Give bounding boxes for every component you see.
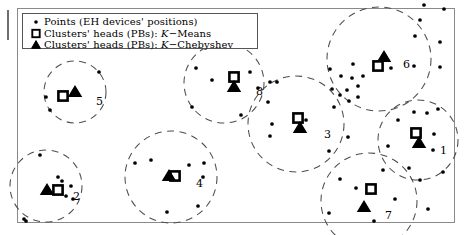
device-point — [346, 135, 350, 139]
device-point — [190, 105, 194, 109]
device-point — [418, 178, 422, 182]
device-point — [210, 78, 214, 82]
triangle-marker — [28, 39, 44, 50]
device-point — [202, 161, 206, 165]
point-marker — [28, 17, 44, 27]
device-point — [438, 65, 442, 69]
device-point — [345, 88, 349, 92]
legend-kmeans-prefix: Clusters' heads (PBs): — [44, 28, 161, 39]
device-point — [347, 99, 351, 103]
device-point — [338, 93, 342, 97]
device-point — [239, 113, 243, 117]
device-point — [187, 163, 191, 167]
legend-kmeans-italic-k: K — [161, 28, 169, 39]
legend-kcheb-prefix: Clusters' heads (PBs): — [44, 39, 161, 50]
device-point — [266, 100, 270, 104]
device-point — [432, 132, 436, 136]
device-point — [393, 197, 397, 201]
legend-kcheb-italic-k: K — [161, 39, 169, 50]
device-point — [431, 148, 435, 152]
legend-kmeans-suffix: −Means — [169, 28, 212, 39]
device-point — [354, 186, 358, 190]
device-point — [97, 70, 101, 74]
cluster-label-5: 5 — [96, 95, 103, 108]
device-point — [389, 66, 393, 70]
cluster-label-7: 7 — [385, 209, 392, 222]
device-point — [422, 3, 426, 7]
legend-row-kchebyshev: Clusters' heads (PBs): K−Chebyshev — [28, 39, 252, 51]
device-point — [332, 105, 336, 109]
device-point — [44, 95, 48, 99]
legend-label-kmeans: Clusters' heads (PBs): K−Means — [44, 28, 211, 39]
device-point — [413, 34, 417, 38]
device-point — [351, 62, 355, 66]
legend-row-points: Points (EH devices' positions) — [28, 16, 252, 28]
device-point — [24, 219, 28, 223]
device-point — [372, 219, 376, 223]
cluster-label-4: 4 — [196, 177, 203, 190]
device-point — [270, 122, 274, 126]
device-point — [381, 168, 385, 172]
device-point — [268, 80, 272, 84]
device-point — [328, 67, 332, 71]
device-point — [338, 177, 342, 181]
legend-row-kmeans: Clusters' heads (PBs): K−Means — [28, 28, 252, 40]
device-point — [441, 170, 445, 174]
device-point — [418, 18, 422, 22]
legend-label-kchebyshev: Clusters' heads (PBs): K−Chebyshev — [44, 39, 233, 50]
device-point — [396, 118, 400, 122]
cluster-label-1: 1 — [440, 144, 447, 157]
device-point — [407, 166, 411, 170]
legend-label-points: Points (EH devices' positions) — [44, 16, 198, 27]
device-point — [248, 70, 252, 74]
square-marker — [28, 28, 44, 39]
device-point — [275, 80, 279, 84]
device-point — [149, 158, 153, 162]
cluster-label-8: 8 — [256, 85, 263, 98]
device-point — [436, 107, 440, 111]
device-point — [356, 95, 360, 99]
device-point — [48, 108, 52, 112]
device-point — [361, 74, 365, 78]
legend-kcheb-suffix: −Chebyshev — [169, 39, 234, 50]
device-point — [412, 110, 416, 114]
device-point — [425, 111, 429, 115]
cluster-label-2: 2 — [73, 190, 80, 203]
device-point — [327, 211, 331, 215]
device-point — [356, 84, 360, 88]
device-point — [60, 179, 64, 183]
device-point — [165, 210, 169, 214]
device-point — [330, 87, 334, 91]
device-point — [339, 74, 343, 78]
device-point — [194, 66, 198, 70]
device-point — [438, 40, 442, 44]
device-point — [386, 144, 390, 148]
device-point — [133, 161, 137, 165]
device-point — [56, 175, 60, 179]
cluster-label-3: 3 — [324, 128, 331, 141]
device-point — [350, 76, 354, 80]
device-point — [64, 194, 68, 198]
device-point — [426, 207, 430, 211]
device-point — [442, 7, 446, 11]
device-point — [304, 118, 308, 122]
cluster-label-6: 6 — [403, 58, 410, 71]
device-point — [196, 204, 200, 208]
device-point — [412, 64, 416, 68]
device-point — [38, 153, 42, 157]
device-point — [69, 184, 73, 188]
cluster-scatter-figure: Points (EH devices' positions) Clusters'… — [0, 0, 464, 235]
device-point — [327, 149, 331, 153]
legend: Points (EH devices' positions) Clusters'… — [22, 13, 258, 49]
device-point — [268, 134, 272, 138]
